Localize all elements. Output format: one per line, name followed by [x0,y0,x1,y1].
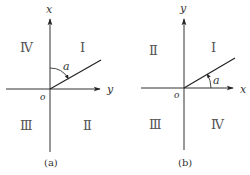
panel-caption: (b) [178,157,192,168]
panel-a: x y o a Ⅳ Ⅰ Ⅲ Ⅱ (a) [6,3,114,168]
quadrant-bottom-left: Ⅲ [20,118,33,133]
panel-caption: (a) [44,157,58,168]
diagram-canvas: x y o a Ⅳ Ⅰ Ⅲ Ⅱ (a) y x o a Ⅱ Ⅰ Ⅲ Ⅳ (b) [0,0,250,175]
angle-label: a [63,60,70,73]
vertical-axis-label: y [179,2,187,15]
quadrant-top-left: Ⅳ [20,40,34,55]
origin-label: o [174,90,180,100]
quadrant-top-left: Ⅱ [149,43,158,58]
vertical-axis-label: x [46,3,53,16]
quadrant-bottom-right: Ⅱ [83,118,92,133]
quadrant-bottom-left: Ⅲ [149,117,162,132]
quadrant-bottom-right: Ⅳ [211,117,225,132]
quadrant-top-right: Ⅰ [80,40,85,55]
angle-ray [50,60,101,89]
panel-b: y x o a Ⅱ Ⅰ Ⅲ Ⅳ (b) [141,2,247,168]
angle-label: a [213,74,220,87]
quadrant-top-right: Ⅰ [211,40,216,55]
horizontal-axis-label: x [240,83,247,96]
origin-label: o [40,92,46,102]
horizontal-axis-label: y [106,83,114,96]
angle-arc [207,74,211,88]
angle-ray [184,58,235,88]
